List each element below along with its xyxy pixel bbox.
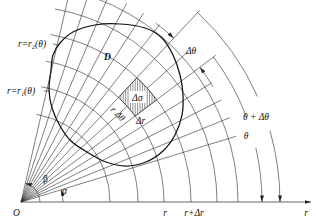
label-inner-curve: r=r₁(θ): [7, 86, 35, 97]
ray-line: [21, 136, 236, 202]
ray-line: [21, 3, 127, 202]
polar-axis-label: r: [304, 208, 308, 218]
theta-plus-delta-dimension-arc: [198, 13, 258, 97]
label-theta-plus-delta: θ + Δθ: [243, 112, 269, 122]
label-beta: β: [43, 174, 48, 184]
label-area-element: Δσ: [131, 93, 143, 103]
label-delta-theta: Δθ: [185, 46, 197, 56]
label-alpha: α: [62, 186, 68, 196]
label-outer-curve: r=r₂(θ): [18, 39, 46, 50]
dimension-annotations: [25, 13, 280, 202]
tick-label-r: r: [163, 208, 167, 218]
delta-theta-arrow: [156, 23, 174, 38]
label-radial-step: Δr: [135, 116, 146, 126]
label-region-d: D: [103, 52, 111, 62]
delta-theta-arrow: [200, 67, 213, 86]
tick-label-r-plus-dr: r+Δr: [184, 208, 204, 218]
grid-arc: [41, 87, 138, 202]
label-origin: O: [13, 208, 20, 218]
ray-line: [21, 118, 230, 202]
theta-plus-delta-dimension-arc: [270, 131, 280, 202]
label-theta: θ: [244, 131, 249, 141]
polar-coordinates-diagram: r=r₂(θ) r=r₁(θ) D Δσ r Δθ Δr Δθ θ + Δθ θ…: [0, 0, 316, 222]
theta-dimension-arc: [256, 148, 262, 202]
